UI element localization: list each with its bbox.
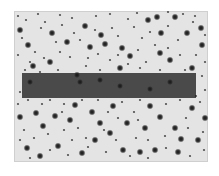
- star-small: [59, 51, 61, 53]
- star-small: [23, 129, 25, 131]
- star-large: [46, 58, 53, 65]
- star-small: [137, 119, 139, 121]
- star-small: [79, 39, 81, 41]
- star-large: [106, 129, 113, 136]
- star-small: [147, 139, 149, 141]
- star-large: [146, 85, 153, 92]
- star-small: [34, 51, 36, 53]
- star-large: [23, 144, 30, 151]
- star-small: [117, 117, 119, 119]
- star-small: [117, 35, 119, 37]
- star-small: [165, 103, 167, 105]
- star-small: [59, 14, 61, 16]
- star-small: [109, 59, 111, 61]
- star-small: [139, 99, 141, 101]
- star-small: [121, 101, 123, 103]
- star-large: [73, 71, 80, 78]
- star-large: [16, 26, 23, 33]
- star-small: [179, 99, 181, 101]
- star-small: [111, 27, 113, 29]
- star-small: [97, 53, 99, 55]
- star-large: [126, 52, 133, 59]
- star-large: [123, 119, 130, 126]
- star-large: [96, 119, 103, 126]
- star-large: [97, 31, 104, 38]
- star-small: [49, 149, 51, 151]
- star-large: [183, 29, 190, 36]
- star-large: [136, 148, 143, 155]
- star-small: [184, 69, 186, 71]
- star-large: [194, 136, 201, 143]
- star-small: [204, 34, 206, 36]
- star-small: [159, 69, 161, 71]
- star-small: [19, 139, 21, 141]
- star-small: [61, 24, 63, 26]
- star-large: [36, 152, 43, 159]
- star-small: [177, 39, 179, 41]
- star-small: [109, 13, 111, 15]
- star-large: [171, 13, 178, 20]
- star-small: [141, 37, 143, 39]
- star-large: [146, 102, 153, 109]
- star-field-image: [0, 0, 219, 176]
- star-small: [17, 15, 19, 17]
- star-large: [166, 78, 173, 85]
- star-small: [87, 57, 89, 59]
- star-small: [33, 137, 35, 139]
- star-large: [86, 43, 93, 50]
- star-large: [171, 124, 178, 131]
- star-large: [198, 41, 205, 48]
- star-large: [16, 113, 23, 120]
- star-small: [137, 49, 139, 51]
- star-large: [156, 113, 163, 120]
- star-large: [81, 22, 88, 29]
- star-large: [156, 49, 163, 56]
- star-small: [39, 71, 41, 73]
- star-small: [97, 99, 99, 101]
- star-small: [103, 129, 105, 131]
- star-large: [24, 41, 31, 48]
- star-large: [177, 135, 184, 142]
- star-large: [48, 29, 55, 36]
- star-small: [29, 157, 31, 159]
- star-small: [99, 69, 101, 71]
- star-small: [77, 127, 79, 129]
- star-small: [194, 15, 196, 17]
- star-small: [192, 21, 194, 23]
- star-large: [29, 62, 36, 69]
- star-small: [195, 54, 197, 56]
- star-small: [201, 75, 203, 77]
- star-small: [73, 32, 75, 34]
- star-small: [43, 57, 45, 59]
- star-large: [174, 148, 181, 155]
- star-small: [95, 15, 97, 17]
- star-small: [165, 147, 167, 149]
- star-small: [63, 129, 65, 131]
- star-small: [71, 139, 73, 141]
- star-large: [32, 109, 39, 116]
- star-small: [117, 54, 119, 56]
- star-small: [195, 95, 197, 97]
- star-small: [19, 91, 21, 93]
- star-small: [136, 12, 138, 14]
- star-small: [87, 146, 89, 148]
- star-large: [197, 24, 204, 31]
- star-large: [71, 101, 78, 108]
- star-large: [116, 82, 123, 89]
- star-small: [105, 151, 107, 153]
- star-small: [67, 154, 69, 156]
- star-small: [167, 25, 169, 27]
- star-small: [85, 137, 87, 139]
- star-large: [118, 44, 125, 51]
- star-small: [57, 69, 59, 71]
- star-small: [133, 26, 135, 28]
- star-large: [188, 104, 195, 111]
- star-small: [179, 54, 181, 56]
- star-large: [144, 16, 151, 23]
- star-small: [149, 31, 151, 33]
- star-small: [167, 47, 169, 49]
- star-small: [40, 27, 42, 29]
- star-small: [81, 99, 83, 101]
- star-small: [49, 99, 51, 101]
- star-large: [141, 124, 148, 131]
